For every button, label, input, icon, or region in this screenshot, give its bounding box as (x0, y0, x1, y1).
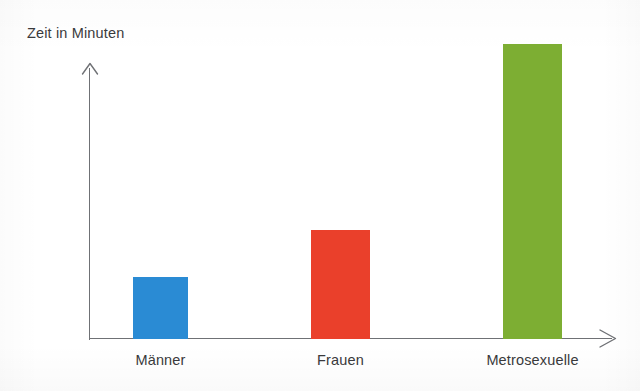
bar-fill-frauen (311, 230, 370, 339)
bar-metrosexuelle (503, 44, 562, 339)
y-axis-line (89, 68, 90, 340)
bar-maenner (133, 277, 188, 339)
x-axis-label-metrosexuelle: Metrosexuelle (486, 352, 578, 368)
bar-fill-maenner (133, 277, 188, 339)
x-axis-label-maenner: Männer (135, 352, 185, 368)
arrow-right-icon (596, 324, 620, 354)
bar-frauen (311, 230, 370, 339)
x-axis-label-frauen: Frauen (317, 352, 364, 368)
bar-chart-figure: Zeit in Minuten MännerFrauenMetrosexuell… (0, 0, 640, 391)
arrow-up-icon (74, 57, 106, 77)
bar-fill-metrosexuelle (503, 44, 562, 339)
y-axis-title: Zeit in Minuten (27, 25, 124, 41)
